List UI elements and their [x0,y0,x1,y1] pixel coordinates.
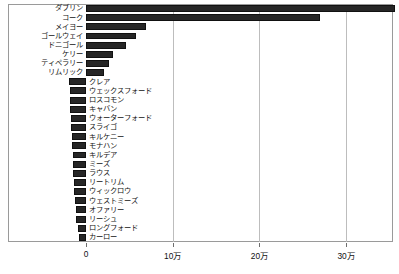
bar[interactable] [73,161,86,168]
bar[interactable] [70,97,86,104]
category-label: リートリム [89,177,399,186]
bar[interactable] [73,170,86,177]
x-axis-tick [173,243,174,247]
category-label: ウェックスフォード [89,86,399,95]
category-label: リムリック [0,67,83,76]
bar[interactable] [76,206,86,213]
bar[interactable] [86,51,113,58]
x-axis-tick-label: 20万 [251,249,268,261]
bar[interactable] [70,106,86,113]
category-label: ウェストミーズ [89,196,399,205]
category-label: ロングフォード [89,223,399,232]
category-label: ダブリン [0,3,83,12]
bar[interactable] [72,142,86,149]
category-label: キャバン [89,104,399,113]
x-axis-tick [259,243,260,247]
bar-row: カーロー [0,233,399,242]
category-label: ロスコモン [89,95,399,104]
category-label: リーシュ [89,214,399,223]
bar[interactable] [70,87,86,94]
bar[interactable] [75,197,86,204]
category-label: ミーズ [89,159,399,168]
bar[interactable] [78,225,86,232]
category-label: キルデア [89,150,399,159]
category-label: キルケニー [89,132,399,141]
bar[interactable] [71,115,86,122]
category-label: ドニゴール [0,40,83,49]
category-label: ゴールウェイ [0,31,83,40]
bar[interactable] [74,179,86,186]
x-axis-tick [346,243,347,247]
category-label: ウィックロウ [89,186,399,195]
category-label: モナハン [89,141,399,150]
bar[interactable] [86,60,109,67]
category-label: ウォーターフォード [89,113,399,122]
category-label: クレア [89,77,399,86]
bar[interactable] [86,14,320,21]
bar[interactable] [76,216,86,223]
x-axis-tick-label: 30万 [337,249,354,261]
category-label: ティペラリー [0,58,83,67]
bar[interactable] [72,133,86,140]
x-axis-tick-label: 10万 [164,249,181,261]
category-label: オファリー [89,205,399,214]
bar[interactable] [69,78,86,85]
category-label: ケリー [0,49,83,58]
category-label: ラウス [89,168,399,177]
category-label: カーロー [89,232,399,241]
bar[interactable] [74,188,86,195]
category-label: スライゴ [89,122,399,131]
x-axis-tick-label: 0 [84,249,89,259]
category-label: メイヨー [0,22,83,31]
bar-rows-group: ダブリンコークメイヨーゴールウェイドニゴールケリーティペラリーリムリッククレアウ… [0,4,399,242]
bar[interactable] [86,23,146,30]
bar[interactable] [71,124,86,131]
bar[interactable] [86,69,104,76]
bar[interactable] [86,33,136,40]
bar-chart: ダブリンコークメイヨーゴールウェイドニゴールケリーティペラリーリムリッククレアウ… [0,0,399,274]
category-label: コーク [0,13,83,22]
x-axis-tick [86,243,87,247]
bar[interactable] [86,5,395,12]
bar[interactable] [73,152,86,159]
bar[interactable] [79,234,86,241]
bar[interactable] [86,42,126,49]
